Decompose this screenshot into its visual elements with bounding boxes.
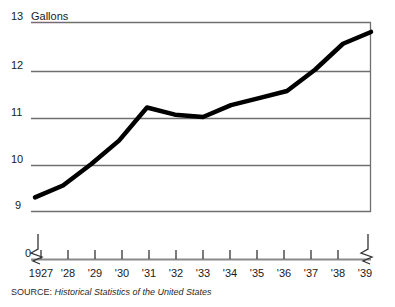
y-tick-label-12: 12 xyxy=(11,60,23,71)
x-tick-label-1938: '38 xyxy=(331,268,345,279)
y-tick-label-13: 13 xyxy=(11,11,23,22)
x-tick-label-1934: '34 xyxy=(223,268,237,279)
y-axis-unit-label: Gallons xyxy=(31,11,68,22)
source-prefix: SOURCE: xyxy=(11,287,52,297)
source-title: Historical Statistics of the United Stat… xyxy=(55,287,212,297)
source-note: SOURCE: Historical Statistics of the Uni… xyxy=(11,287,212,297)
x-tick-label-1929: '29 xyxy=(88,268,102,279)
line-chart-figure: 13 12 11 10 9 0 Gallons 1927 '28 '29 '30… xyxy=(0,0,395,307)
x-tick-label-1939: '39 xyxy=(358,268,372,279)
y-tick-label-9: 9 xyxy=(15,200,21,211)
y-tick-label-10: 10 xyxy=(11,154,23,165)
x-tick-label-1927: 1927 xyxy=(29,268,53,279)
x-tick-label-1930: '30 xyxy=(115,268,129,279)
y-tick-label-11: 11 xyxy=(11,107,22,118)
x-tick-label-1933: '33 xyxy=(196,268,210,279)
x-tick-label-1935: '35 xyxy=(250,268,264,279)
x-tick-label-1932: '32 xyxy=(169,268,183,279)
x-tick-label-1936: '36 xyxy=(277,268,291,279)
data-series-line xyxy=(35,32,371,197)
chart-plot-area xyxy=(0,0,395,307)
x-axis-ticks xyxy=(41,250,338,259)
x-tick-label-1937: '37 xyxy=(304,268,318,279)
x-tick-label-1931: '31 xyxy=(142,268,156,279)
x-tick-label-1928: '28 xyxy=(61,268,75,279)
y-axis-break-label: 0 xyxy=(25,248,31,259)
